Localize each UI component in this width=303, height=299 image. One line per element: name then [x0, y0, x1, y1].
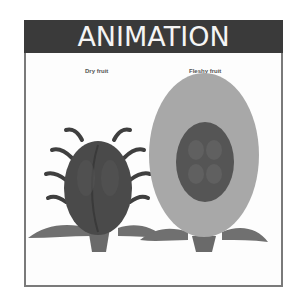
dry-fruit-illustration — [28, 129, 165, 252]
fruit-illustration — [0, 0, 303, 299]
fleshy-fruit-illustration — [140, 73, 268, 252]
